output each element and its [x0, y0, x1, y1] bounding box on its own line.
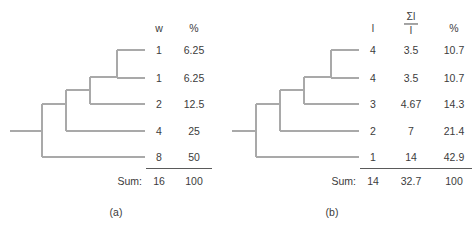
- cell-percent-b-1: 10.7: [436, 45, 472, 56]
- header-w: w: [146, 23, 172, 34]
- cell-sll-4: 7: [388, 126, 434, 137]
- caption-a: (a): [110, 206, 123, 218]
- cell-sll-5: 14: [388, 152, 434, 163]
- cell-percent-3: 12.5: [176, 99, 212, 110]
- cell-l-2: 4: [360, 73, 386, 84]
- cell-w-1: 1: [146, 45, 172, 56]
- cell-sll-3: 4.67: [388, 99, 434, 110]
- fraction-denominator: l: [404, 25, 419, 37]
- cell-w-4: 4: [146, 126, 172, 137]
- cell-percent-1: 6.25: [176, 45, 212, 56]
- cell-percent-2: 6.25: [176, 73, 212, 84]
- cell-w-2: 1: [146, 73, 172, 84]
- sum-sll: 32.7: [388, 176, 434, 187]
- column-percent-b: % 10.7 10.7 14.3 21.4 42.9 100: [436, 0, 472, 238]
- column-l: l 4 4 3 2 1 14: [360, 0, 386, 238]
- column-percent: % 6.25 6.25 12.5 25 50 100: [176, 0, 212, 238]
- cell-percent-b-5: 42.9: [436, 152, 472, 163]
- cell-l-5: 1: [360, 152, 386, 163]
- cell-percent-4: 25: [176, 126, 212, 137]
- total-rule-a: [146, 168, 212, 169]
- cell-w-3: 2: [146, 99, 172, 110]
- fraction-numerator: Σl: [404, 11, 419, 24]
- cell-sll-2: 3.5: [388, 73, 434, 84]
- sum-w: 16: [146, 176, 172, 187]
- sum-percent-b: 100: [436, 176, 472, 187]
- column-w: w 1 1 2 4 8 16: [146, 0, 172, 238]
- panel-b: l 4 4 3 2 1 14 Σl l 3.5 3.5 4.67 7 14 32…: [232, 0, 463, 238]
- cell-percent-b-2: 10.7: [436, 73, 472, 84]
- cell-l-4: 2: [360, 126, 386, 137]
- fraction-sigma-l-over-l: Σl l: [404, 11, 419, 36]
- header-percent-b: %: [436, 23, 472, 34]
- header-l: l: [360, 23, 386, 34]
- sum-label-a: Sum:: [98, 175, 142, 187]
- cell-l-3: 3: [360, 99, 386, 110]
- header-percent: %: [176, 23, 212, 34]
- cell-percent-b-4: 21.4: [436, 126, 472, 137]
- cell-percent-b-3: 14.3: [436, 99, 472, 110]
- sum-label-b: Sum:: [312, 175, 356, 187]
- cell-sll-1: 3.5: [388, 45, 434, 56]
- header-sigma-l-over-l: Σl l: [388, 11, 434, 36]
- column-sigma-l-over-l: Σl l 3.5 3.5 4.67 7 14 32.7: [388, 0, 434, 238]
- cell-percent-5: 50: [176, 152, 212, 163]
- cell-l-1: 4: [360, 45, 386, 56]
- sum-percent: 100: [176, 176, 212, 187]
- cell-w-5: 8: [146, 152, 172, 163]
- total-rule-b: [360, 168, 472, 169]
- panel-a: w 1 1 2 4 8 16 % 6.25 6.25 12.5 25 50 10…: [0, 0, 232, 238]
- sum-l: 14: [360, 176, 386, 187]
- caption-b: (b): [326, 206, 339, 218]
